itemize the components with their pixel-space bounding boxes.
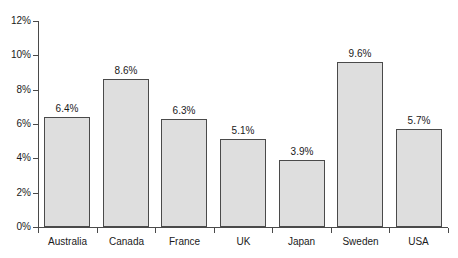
bar	[103, 79, 149, 227]
x-axis-separator-tick	[448, 228, 449, 233]
x-axis-category-label: France	[155, 236, 214, 248]
y-axis-tick-label: 2%	[1, 188, 31, 198]
bar	[396, 129, 442, 227]
y-axis-tick	[33, 21, 39, 22]
x-axis-separator-tick	[389, 228, 390, 233]
bar	[220, 139, 266, 227]
y-axis-labels: 0%2%4%6%8%10%12%	[0, 0, 31, 258]
y-axis-tick-label: 8%	[1, 85, 31, 95]
x-axis-category-label: USA	[389, 236, 448, 248]
bar-value-label: 5.7%	[384, 115, 454, 126]
x-axis-separator-tick	[155, 228, 156, 233]
x-axis-line	[38, 227, 448, 228]
y-axis-tick-label: 6%	[1, 119, 31, 129]
bar-value-label: 5.1%	[208, 125, 278, 136]
y-axis-tick	[33, 193, 39, 194]
bar-value-label: 9.6%	[325, 48, 395, 59]
x-axis-separator-tick	[272, 228, 273, 233]
bar-chart: 0%2%4%6%8%10%12% 6.4%Australia8.6%Canada…	[0, 0, 458, 258]
y-axis-tick	[33, 158, 39, 159]
y-axis-tick-label: 4%	[1, 153, 31, 163]
y-axis-tick	[33, 124, 39, 125]
bar-value-label: 6.4%	[32, 103, 102, 114]
x-axis-category-label: Australia	[38, 236, 97, 248]
x-axis-category-label: Sweden	[331, 236, 390, 248]
bar	[337, 62, 383, 227]
y-axis-tick-label: 0%	[1, 222, 31, 232]
y-axis-tick	[33, 55, 39, 56]
bar-value-label: 3.9%	[267, 146, 337, 157]
y-axis-tick-label: 10%	[1, 50, 31, 60]
y-axis-tick	[33, 90, 39, 91]
x-axis-category-label: UK	[214, 236, 273, 248]
x-axis-category-label: Canada	[97, 236, 156, 248]
x-axis-separator-tick	[331, 228, 332, 233]
bar-value-label: 6.3%	[149, 105, 219, 116]
bar-value-label: 8.6%	[91, 65, 161, 76]
x-axis-category-label: Japan	[272, 236, 331, 248]
y-axis-tick-label: 12%	[1, 16, 31, 26]
bar	[161, 119, 207, 227]
x-axis-separator-tick	[214, 228, 215, 233]
bar	[44, 117, 90, 227]
x-axis-separator-tick	[38, 228, 39, 233]
bar	[279, 160, 325, 227]
x-axis-separator-tick	[97, 228, 98, 233]
